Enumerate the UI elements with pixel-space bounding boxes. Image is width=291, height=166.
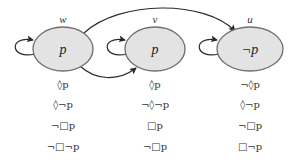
world-u: u ¬p	[217, 13, 283, 71]
formulas-u: ¬◊p ◊¬p ¬□p □¬p	[238, 79, 262, 152]
world-value-w: p	[59, 42, 67, 57]
world-label-w: w	[59, 13, 67, 25]
formula-w-4: ¬□¬p	[47, 141, 80, 152]
formula-u-1: ¬◊p	[240, 79, 260, 91]
formula-v-3: □p	[147, 120, 163, 131]
world-label-v: v	[153, 13, 158, 25]
formula-u-3: ¬□p	[238, 120, 262, 131]
formulas-w: ◊p ◊¬p ¬□p ¬□¬p	[47, 79, 80, 152]
self-loop-v	[107, 39, 127, 55]
edge-w-to-v	[80, 66, 136, 78]
formula-w-1: ◊p	[57, 79, 68, 91]
formula-u-4: □¬p	[238, 141, 262, 152]
world-label-u: u	[247, 13, 253, 25]
formula-u-2: ◊¬p	[240, 99, 260, 111]
self-loop-u	[199, 39, 219, 55]
world-w: w p	[33, 13, 93, 71]
formula-w-2: ◊¬p	[53, 99, 73, 111]
kripke-diagram: w p v p u ¬p ◊p ◊¬p ¬□p ¬□¬p ◊p ¬◊¬p □p …	[0, 0, 291, 166]
self-loop-w	[15, 39, 35, 55]
world-v: v p	[125, 13, 185, 71]
formula-v-4: ¬□p	[143, 141, 167, 152]
formula-v-1: ◊p	[149, 79, 160, 91]
world-value-u: ¬p	[242, 42, 258, 57]
world-value-v: p	[151, 42, 159, 57]
formulas-v: ◊p ¬◊¬p □p ¬□p	[141, 79, 169, 152]
formula-v-2: ¬◊¬p	[141, 99, 169, 111]
formula-w-3: ¬□p	[51, 120, 75, 131]
